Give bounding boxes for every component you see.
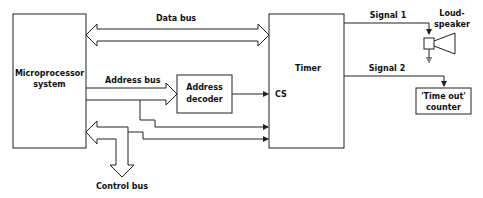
address-bus-label: Address bus — [105, 76, 161, 85]
control-tap-line — [128, 132, 268, 139]
loudspeaker-label-2: speaker — [434, 20, 470, 29]
timer-block: Timer CS — [269, 14, 344, 148]
data-bus-arrow: Data bus — [86, 14, 269, 46]
loudspeaker-icon: Loud- speaker — [424, 9, 470, 62]
block-diagram: Microprocessor system Timer CS Data bus … — [0, 0, 483, 198]
address-decoder-label-1: Address — [186, 83, 223, 92]
microprocessor-block: Microprocessor system — [13, 14, 86, 148]
control-bus-label: Control bus — [96, 182, 148, 191]
timeout-counter-label-2: counter — [426, 103, 461, 112]
signal-1: Signal 1 — [344, 11, 429, 34]
signal-2-label: Signal 2 — [369, 64, 405, 73]
address-decoder-label-2: decoder — [186, 95, 223, 104]
microprocessor-label-1: Microprocessor — [15, 69, 84, 78]
microprocessor-label-2: system — [33, 80, 65, 89]
timeout-counter-block: 'Time out' counter — [416, 88, 471, 114]
address-bus-arrow: Address bus — [86, 76, 177, 105]
signal-2: Signal 2 — [344, 64, 444, 86]
loudspeaker-label-1: Loud- — [439, 9, 464, 18]
timeout-counter-label-1: 'Time out' — [421, 92, 466, 101]
timer-label: Timer — [295, 64, 321, 73]
signal-1-label: Signal 1 — [370, 11, 407, 20]
address-decoder-block: Address decoder — [177, 75, 232, 113]
data-bus-label: Data bus — [156, 14, 196, 23]
cs-label: CS — [275, 90, 287, 99]
